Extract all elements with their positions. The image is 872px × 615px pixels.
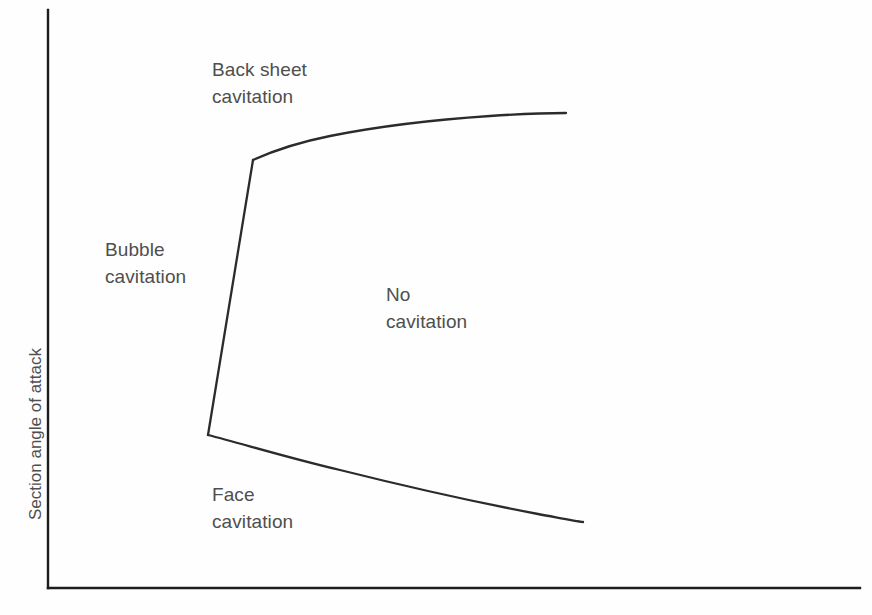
y-axis-title: Section angle of attack (26, 220, 46, 520)
annotation-line-2: cavitation (212, 83, 307, 110)
bubble-boundary-steep-line (208, 160, 253, 435)
annotation-line-2: cavitation (386, 308, 467, 335)
annotation-line-1: No (386, 284, 411, 305)
annotation-line-1: Face (212, 484, 255, 505)
annotation-line-1: Back sheet (212, 59, 307, 80)
annotation-back-sheet-cavitation: Back sheet cavitation (212, 56, 307, 110)
annotation-line-2: cavitation (105, 263, 186, 290)
upper-boundary-back-sheet-curve (253, 113, 566, 160)
annotation-line-2: cavitation (212, 508, 293, 535)
annotation-no-cavitation: No cavitation (386, 281, 467, 335)
annotation-line-1: Bubble (105, 239, 165, 260)
cavitation-bucket-diagram: Back sheet cavitation Bubble cavitation … (0, 0, 872, 615)
annotation-bubble-cavitation: Bubble cavitation (105, 236, 186, 290)
annotation-face-cavitation: Face cavitation (212, 481, 293, 535)
